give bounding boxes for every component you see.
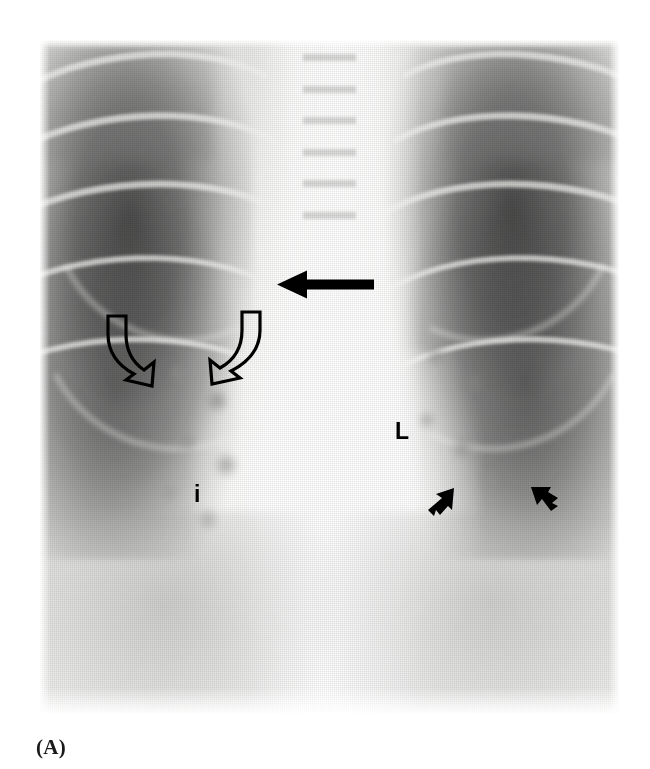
right-paratracheal-arrow [277, 270, 375, 300]
marker-L: L [395, 420, 409, 443]
figure-caption: (A) [36, 735, 66, 760]
small-arrow-lateral [527, 483, 561, 515]
vertebral-body [303, 54, 355, 61]
vertebral-body [303, 117, 355, 124]
lower-lung-zones [40, 512, 619, 714]
vertebral-column [303, 40, 355, 390]
marker-i: i [194, 483, 200, 506]
vertebral-body [303, 149, 355, 156]
figure-root: L i (A) [0, 0, 650, 769]
vertebral-body [303, 212, 355, 219]
open-arrow-medial [198, 308, 276, 392]
vertebral-body [303, 180, 355, 187]
vertebral-body [303, 86, 355, 93]
open-arrow-lateral [96, 312, 172, 394]
small-arrow-medial [426, 486, 458, 518]
